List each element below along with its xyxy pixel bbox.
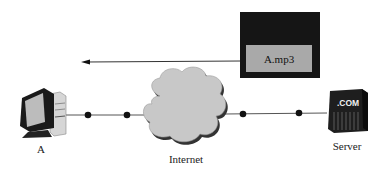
internet-label: Internet xyxy=(156,153,216,165)
server-com-badge: .COM xyxy=(333,98,363,108)
link-dot xyxy=(296,110,303,117)
file-label: A.mp3 xyxy=(246,45,312,72)
link-dot xyxy=(85,112,92,119)
client-label: A xyxy=(31,143,51,155)
server-icon xyxy=(328,89,368,133)
server-label: Server xyxy=(322,140,372,152)
desktop-computer-icon xyxy=(20,88,66,138)
link-dot xyxy=(240,111,247,118)
cloud-icon xyxy=(143,67,227,145)
link-dot xyxy=(124,112,131,119)
download-arrow-icon xyxy=(81,60,240,65)
link-internet-server xyxy=(224,113,327,114)
